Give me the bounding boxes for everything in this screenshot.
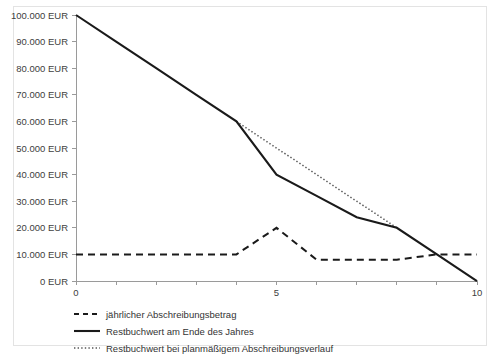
- y-tick-label: 50.000 EUR: [16, 143, 68, 154]
- y-tick-label: 10.000 EUR: [16, 249, 68, 260]
- series-line-planned-book-value: [236, 121, 396, 227]
- legend-label: Restbuchwert am Ende des Jahres: [106, 326, 254, 337]
- chart-plot: 0 EUR10.000 EUR20.000 EUR30.000 EUR40.00…: [0, 0, 500, 358]
- chart-container: 0 EUR10.000 EUR20.000 EUR30.000 EUR40.00…: [0, 0, 500, 358]
- x-axis-tick-marks: [76, 281, 477, 285]
- y-tick-label: 30.000 EUR: [16, 196, 68, 207]
- y-tick-label: 80.000 EUR: [16, 63, 68, 74]
- y-tick-label: 100.000 EUR: [11, 10, 68, 21]
- legend-label: jährlicher Abschreibungsbetrag: [105, 309, 236, 320]
- series-line-annual-depreciation: [76, 228, 477, 260]
- x-tick-label: 0: [73, 287, 78, 298]
- x-axis-tick-labels: 0510: [73, 287, 482, 298]
- y-axis-tick-labels: 0 EUR10.000 EUR20.000 EUR30.000 EUR40.00…: [11, 10, 68, 287]
- y-tick-label: 0 EUR: [40, 276, 68, 287]
- y-tick-label: 90.000 EUR: [16, 36, 68, 47]
- chart-legend: jährlicher AbschreibungsbetragRestbuchwe…: [74, 309, 333, 354]
- legend-label: Restbuchwert bei planmäßigem Abschreibun…: [106, 343, 333, 354]
- y-tick-label: 70.000 EUR: [16, 89, 68, 100]
- y-axis-tick-marks: [72, 15, 76, 281]
- y-tick-label: 60.000 EUR: [16, 116, 68, 127]
- y-tick-label: 40.000 EUR: [16, 169, 68, 180]
- y-tick-label: 20.000 EUR: [16, 222, 68, 233]
- x-tick-label: 10: [472, 287, 483, 298]
- x-tick-label: 5: [274, 287, 279, 298]
